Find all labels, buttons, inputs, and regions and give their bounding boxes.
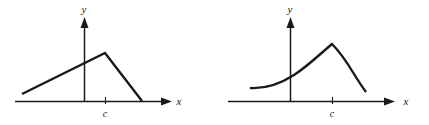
x-axis-arrowhead [161,98,172,106]
y-axis-arrowhead [81,17,89,28]
chart-panel-right: x y c [214,0,429,125]
y-axis-label: y [81,3,87,15]
chart-panel-left: x y c [0,0,214,125]
x-axis-label: x [176,95,182,107]
y-axis-arrowhead [287,17,295,28]
tick-label-c: c [330,108,335,119]
chart-svg-left: x y c [0,0,214,125]
function-curve-piecewise [22,53,142,101]
x-axis-label: x [403,95,409,107]
x-axis-arrowhead [384,98,395,106]
chart-svg-right: x y c [214,0,429,125]
tick-label-c: c [103,108,108,119]
y-axis-label: y [287,3,293,15]
figure-root: x y c x y c [0,0,429,125]
function-curve-smooth [250,44,366,92]
